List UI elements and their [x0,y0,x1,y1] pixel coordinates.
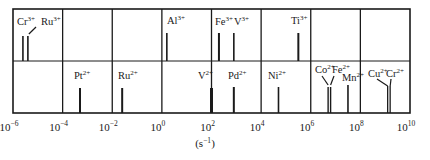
label-leader-line [377,79,388,86]
water-exchange-rate-chart: Cr3+Ru3+Al3+Fe3+V3+Ti3+Pt2+Ru2+V2+Pd2+Ni… [0,0,430,160]
ion-label: Cr3+ [17,15,35,27]
x-tick-label: 10−4 [49,119,68,133]
x-tick-label: 106 [299,119,314,133]
x-tick-label: 108 [349,119,364,133]
x-tick-label: 104 [250,119,265,133]
ion-label: Ru2+ [118,69,138,81]
ion-label: Ti3+ [291,14,307,26]
ion-label: Fe3+ [215,15,233,27]
ion-label: Pt2+ [74,69,90,81]
label-leader-line [390,79,391,86]
ion-label: V2+ [198,69,213,81]
label-leader-line [29,27,36,34]
ion-label: V3+ [234,15,249,27]
ion-label: Cr2+ [386,67,404,79]
x-axis-unit-label: (s−1) [195,136,215,150]
x-tick-label: 100 [151,119,166,133]
ion-label: Ni2+ [268,69,286,81]
x-tick-label: 102 [200,119,215,133]
ion-label: Al3+ [167,14,185,26]
label-leader-line [322,76,328,85]
ion-labels: Cr3+Ru3+Al3+Fe3+V3+Ti3+Pt2+Ru2+V2+Pd2+Ni… [17,14,404,83]
ion-label: Ru3+ [41,15,61,27]
x-axis-tick-labels: 10−610−410−21001021041061081010 [0,119,416,133]
x-tick-label: 10−2 [99,119,118,133]
label-leader-line [331,76,334,85]
x-tick-label: 10−6 [0,119,19,133]
x-tick-label: 1010 [397,119,416,133]
ion-label: Cu2+ [368,67,388,79]
ion-label: Pd2+ [228,69,247,81]
